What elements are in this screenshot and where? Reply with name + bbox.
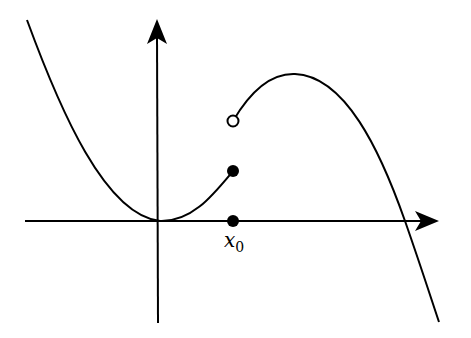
filled-point-function-value bbox=[227, 165, 239, 177]
filled-point-on-axis bbox=[227, 215, 239, 227]
y-axis bbox=[157, 35, 158, 323]
right-branch-curve bbox=[233, 74, 439, 322]
function-diagram: x0 bbox=[0, 0, 471, 338]
x0-label-subscript: 0 bbox=[235, 239, 244, 255]
diagram-svg bbox=[0, 0, 471, 338]
open-point-limit bbox=[228, 116, 239, 127]
x0-label-main: x bbox=[224, 228, 235, 252]
x0-label: x0 bbox=[224, 230, 244, 254]
left-branch-curve bbox=[27, 20, 233, 221]
